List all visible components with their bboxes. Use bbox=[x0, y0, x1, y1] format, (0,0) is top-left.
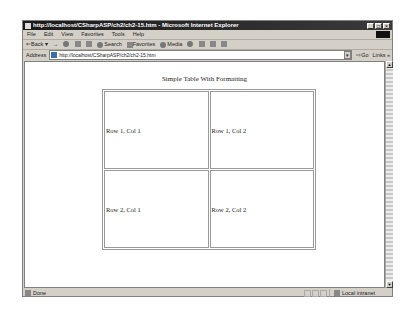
links-button[interactable]: Links » bbox=[373, 52, 390, 58]
minimize-button[interactable]: _ bbox=[367, 23, 374, 29]
status-panel bbox=[320, 290, 327, 297]
favorites-button[interactable]: Favorites bbox=[127, 39, 156, 49]
address-dropdown-button[interactable]: ▾ bbox=[344, 51, 351, 59]
table-cell: Row 1, Col 2 bbox=[210, 91, 315, 169]
formatted-table: Row 1, Col 1 Row 1, Col 2 Row 2, Col 1 R… bbox=[102, 89, 316, 250]
table-cell: Row 1, Col 1 bbox=[104, 91, 209, 169]
title-bar: http://localhost/CSharpASP/ch2/ch2-15.ht… bbox=[23, 21, 392, 30]
table-cell: Row 2, Col 2 bbox=[210, 170, 315, 248]
status-panel bbox=[304, 290, 311, 297]
window-title: http://localhost/CSharpASP/ch2/ch2-15.ht… bbox=[33, 21, 367, 30]
vertical-scrollbar[interactable]: ▲ ▼ bbox=[385, 61, 393, 288]
table-cell: Row 2, Col 1 bbox=[104, 170, 209, 248]
address-bar: Address http://localhost/CSharpASP/ch2/c… bbox=[23, 49, 392, 60]
forward-button[interactable]: → bbox=[53, 39, 59, 49]
back-button[interactable]: ⇐Back ▾ bbox=[26, 39, 48, 49]
table-caption: Simple Table With Formatting bbox=[25, 75, 384, 83]
mail-icon[interactable] bbox=[199, 41, 205, 47]
close-button[interactable]: × bbox=[383, 23, 390, 29]
security-zone: Local intranet bbox=[329, 289, 392, 297]
status-text: Done bbox=[33, 289, 304, 297]
menu-view[interactable]: View bbox=[61, 30, 73, 39]
scroll-up-icon[interactable]: ▲ bbox=[386, 61, 393, 68]
menu-tools[interactable]: Tools bbox=[112, 30, 125, 39]
menu-file[interactable]: File bbox=[27, 30, 36, 39]
status-panel bbox=[312, 290, 319, 297]
print-icon[interactable] bbox=[210, 41, 216, 47]
status-panels bbox=[304, 290, 327, 297]
search-button[interactable]: Search bbox=[97, 39, 121, 49]
menu-help[interactable]: Help bbox=[133, 30, 144, 39]
media-icon bbox=[160, 42, 166, 48]
browser-window: http://localhost/CSharpASP/ch2/ch2-15.ht… bbox=[22, 20, 393, 297]
table-row: Row 2, Col 1 Row 2, Col 2 bbox=[104, 170, 314, 248]
page-done-icon bbox=[25, 290, 31, 296]
scroll-down-icon[interactable]: ▼ bbox=[386, 281, 393, 288]
intranet-icon bbox=[334, 290, 340, 296]
edit-icon[interactable] bbox=[221, 41, 227, 47]
page-content: Simple Table With Formatting Row 1, Col … bbox=[24, 61, 385, 288]
history-icon[interactable] bbox=[187, 41, 193, 47]
go-button[interactable]: ⇨Go bbox=[356, 52, 368, 58]
zone-label: Local intranet bbox=[342, 289, 375, 297]
table-row: Row 1, Col 1 Row 1, Col 2 bbox=[104, 91, 314, 169]
home-icon[interactable] bbox=[86, 41, 92, 47]
stop-icon[interactable] bbox=[63, 41, 69, 47]
status-bar: Done Local intranet bbox=[23, 289, 392, 297]
media-button[interactable]: Media bbox=[160, 39, 182, 49]
address-label: Address bbox=[26, 52, 46, 58]
address-input[interactable]: http://localhost/CSharpASP/ch2/ch2-15.ht… bbox=[49, 50, 352, 60]
ie-page-icon bbox=[25, 23, 31, 29]
page-icon bbox=[51, 52, 57, 58]
refresh-icon[interactable] bbox=[75, 41, 81, 47]
windows-logo-icon bbox=[376, 31, 390, 38]
search-icon bbox=[97, 42, 103, 48]
address-url: http://localhost/CSharpASP/ch2/ch2-15.ht… bbox=[59, 51, 344, 59]
menu-favorites[interactable]: Favorites bbox=[81, 30, 104, 39]
menu-edit[interactable]: Edit bbox=[44, 30, 53, 39]
maximize-button[interactable]: □ bbox=[375, 23, 382, 29]
